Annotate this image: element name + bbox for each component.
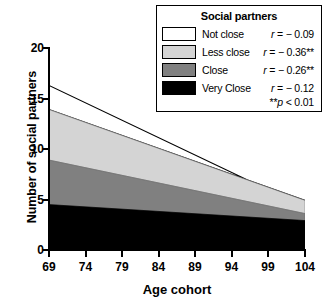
- y-tick-label-0: 0: [20, 243, 44, 257]
- legend-item-very-close: Very Close r = − 0.12: [162, 79, 316, 96]
- legend-stat-value-less-close: = − 0.36**: [267, 46, 314, 58]
- legend-item-close: Close r = − 0.26**: [162, 61, 316, 78]
- legend-note-rest: < 0.01: [283, 96, 314, 108]
- chart-legend: Social partners Not close r = − 0.09 Les…: [156, 5, 322, 112]
- legend-swatch-very-close: [162, 81, 196, 95]
- x-tick-mark-94: [231, 251, 233, 257]
- x-tick-label-74: 74: [79, 260, 92, 274]
- legend-stat-not-close: r = − 0.09: [271, 28, 316, 40]
- x-tick-mark-74: [85, 251, 87, 257]
- y-tick-label-10: 10: [20, 142, 44, 156]
- legend-swatch-less-close: [162, 45, 196, 59]
- legend-label-less-close: Less close: [202, 46, 250, 58]
- x-tick-label-94: 94: [225, 260, 238, 274]
- legend-label-very-close: Very Close: [202, 82, 251, 94]
- x-tick-label-79: 79: [115, 260, 128, 274]
- legend-swatch-close: [162, 63, 196, 77]
- y-axis-tick-labels: 20 15 10 5 0: [16, 0, 44, 308]
- x-tick-mark-99: [267, 251, 269, 257]
- legend-label-close: Close: [202, 64, 228, 76]
- legend-item-not-close: Not close r = − 0.09: [162, 25, 316, 42]
- x-axis-title: Age cohort: [48, 282, 306, 297]
- x-tick-label-84: 84: [152, 260, 165, 274]
- y-axis-line: [48, 47, 50, 251]
- legend-title: Social partners: [162, 10, 316, 22]
- legend-stat-less-close: r = − 0.36**: [263, 46, 316, 58]
- y-tick-label-15: 15: [20, 92, 44, 106]
- x-tick-mark-69: [48, 251, 50, 257]
- x-tick-mark-84: [158, 251, 160, 257]
- x-tick-label-89: 89: [188, 260, 201, 274]
- x-tick-mark-79: [121, 251, 123, 257]
- x-tick-label-104: 104: [295, 260, 315, 274]
- legend-item-less-close: Less close r = − 0.36**: [162, 43, 316, 60]
- legend-stat-value-very-close: = − 0.12: [274, 82, 314, 94]
- chart-figure: Number of social partners 20 15 10 5 0: [0, 0, 328, 308]
- x-tick-label-99: 99: [261, 260, 274, 274]
- y-tick-label-5: 5: [20, 193, 44, 207]
- x-tick-label-69: 69: [42, 260, 55, 274]
- x-tick-mark-89: [194, 251, 196, 257]
- legend-significance-note: **p < 0.01: [162, 96, 316, 108]
- legend-swatch-not-close: [162, 27, 196, 41]
- legend-label-not-close: Not close: [202, 28, 244, 40]
- legend-stat-close: r = − 0.26**: [263, 64, 316, 76]
- legend-stat-value-close: = − 0.26**: [267, 64, 314, 76]
- y-tick-label-20: 20: [20, 41, 44, 55]
- x-tick-mark-104: [304, 251, 306, 257]
- legend-stat-value-not-close: = − 0.09: [274, 28, 314, 40]
- legend-stat-very-close: r = − 0.12: [271, 82, 316, 94]
